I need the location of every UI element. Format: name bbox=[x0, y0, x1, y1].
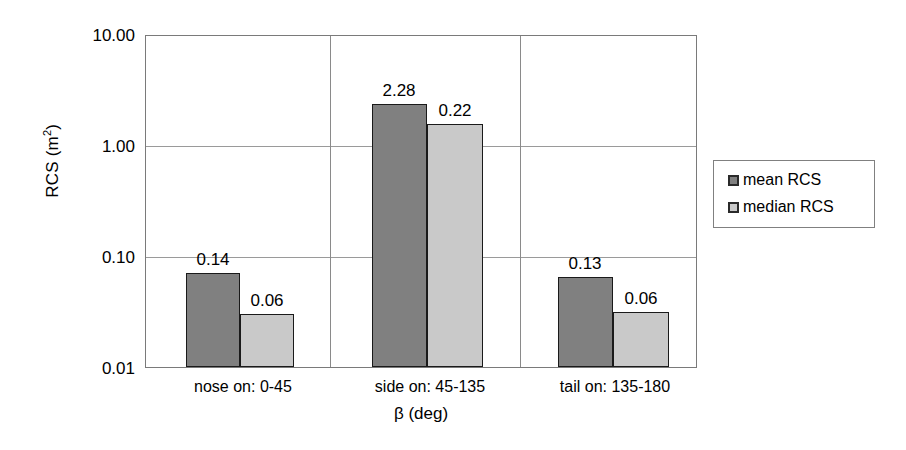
bar-median-nose-on bbox=[240, 314, 294, 367]
category-separator-2 bbox=[520, 36, 521, 367]
legend-label-mean: mean RCS bbox=[743, 171, 821, 189]
bar-value-label-median-nose-on: 0.06 bbox=[233, 292, 301, 309]
bar-mean-nose-on bbox=[186, 273, 240, 367]
bar-value-label-mean-tail-on: 0.13 bbox=[551, 255, 619, 272]
y-tick-label-1: 1.00 bbox=[55, 138, 135, 155]
bar-value-label-median-side-on: 0.22 bbox=[421, 102, 489, 119]
legend: mean RCS median RCS bbox=[713, 160, 875, 228]
x-tick-label-side-on: side on: 45-135 bbox=[335, 378, 525, 396]
bar-median-tail-on bbox=[613, 312, 669, 367]
bar-median-side-on bbox=[427, 124, 483, 367]
legend-label-median: median RCS bbox=[743, 198, 834, 216]
y-axis-title-exponent: 2 bbox=[41, 130, 53, 136]
bar-value-label-mean-side-on: 2.28 bbox=[365, 82, 433, 99]
y-tick-label-0.10: 0.10 bbox=[55, 249, 135, 266]
y-tick-label-0.01: 0.01 bbox=[55, 360, 135, 377]
legend-item-median-rcs: median RCS bbox=[728, 198, 834, 216]
bar-mean-tail-on bbox=[558, 277, 613, 367]
y-tick-label-10: 10.00 bbox=[55, 27, 135, 44]
x-tick-label-nose-on: nose on: 0-45 bbox=[153, 378, 333, 396]
legend-swatch-icon-median bbox=[728, 202, 739, 213]
plot-area: 0.14 0.06 2.28 0.22 0.13 0.06 bbox=[145, 35, 697, 368]
x-tick-label-tail-on: tail on: 135-180 bbox=[520, 378, 710, 396]
rcs-bar-chart-figure: RCS (m2) 10.00 1.00 0.10 0.01 0.14 0.06 … bbox=[0, 0, 906, 450]
legend-swatch-icon-mean bbox=[728, 175, 739, 186]
bar-mean-side-on bbox=[372, 104, 427, 367]
bar-value-label-median-tail-on: 0.06 bbox=[607, 290, 675, 307]
bar-value-label-mean-nose-on: 0.14 bbox=[179, 251, 247, 268]
legend-item-mean-rcs: mean RCS bbox=[728, 171, 821, 189]
category-separator-1 bbox=[330, 36, 331, 367]
x-axis-title: β (deg) bbox=[145, 404, 697, 424]
y-axis-tick-labels: 10.00 1.00 0.10 0.01 bbox=[55, 0, 135, 450]
